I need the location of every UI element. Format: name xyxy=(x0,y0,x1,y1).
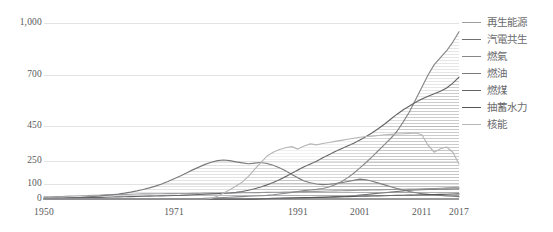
y-axis-tick-label: 700 xyxy=(27,70,42,80)
legend-item-label: 抽蓄水力 xyxy=(487,102,527,113)
legend-item-2[interactable]: 汽電共生 xyxy=(462,31,553,48)
x-axis-tick-label: 2011 xyxy=(412,207,431,217)
legend-item-label: 汽電共生 xyxy=(487,34,527,45)
legend-color-swatch xyxy=(462,73,481,74)
legend-item-label: 核能 xyxy=(487,119,507,130)
legend-item-3[interactable]: 燃氣 xyxy=(462,48,553,65)
legend-color-swatch xyxy=(462,22,481,23)
x-axis-tick-label: 1950 xyxy=(34,207,54,217)
legend-color-swatch xyxy=(462,124,481,125)
y-axis-tick-label: 100 xyxy=(27,179,42,189)
x-axis-tick-label: 1991 xyxy=(288,207,308,217)
y-axis-tick-label: 450 xyxy=(27,121,42,131)
chart-container: 1,0007004502501000 195019711991200120112… xyxy=(0,0,553,232)
legend-color-swatch xyxy=(462,107,481,108)
legend-color-swatch xyxy=(462,39,481,40)
legend-item-1[interactable]: 再生能源 xyxy=(462,14,553,31)
chart-legend: 再生能源汽電共生燃氣燃油燃煤抽蓄水力核能 xyxy=(462,14,553,133)
y-axis-tick-label: 1,000 xyxy=(20,18,42,28)
legend-item-label: 再生能源 xyxy=(487,17,527,28)
legend-item-label: 燃油 xyxy=(487,68,507,79)
legend-item-label: 燃氣 xyxy=(487,51,507,62)
y-axis-tick-label: 250 xyxy=(27,156,42,166)
legend-item-7[interactable]: 核能 xyxy=(462,116,553,133)
legend-item-4[interactable]: 燃油 xyxy=(462,65,553,82)
x-axis: 195019711991200120112017 xyxy=(0,207,553,223)
legend-item-label: 燃煤 xyxy=(487,85,507,96)
y-axis-tick-label: 0 xyxy=(37,194,42,204)
x-axis-tick-label: 2017 xyxy=(449,207,469,217)
legend-color-swatch xyxy=(462,56,481,57)
legend-item-5[interactable]: 燃煤 xyxy=(462,82,553,99)
legend-color-swatch xyxy=(462,90,481,91)
x-axis-tick-label: 1971 xyxy=(164,207,184,217)
legend-item-6[interactable]: 抽蓄水力 xyxy=(462,99,553,116)
y-axis: 1,0007004502501000 xyxy=(0,0,42,232)
x-axis-tick-label: 2001 xyxy=(350,207,370,217)
